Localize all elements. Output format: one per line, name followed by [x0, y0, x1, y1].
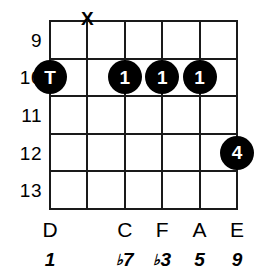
finger-dot-1: 1: [145, 60, 179, 94]
note-label-E: E: [215, 219, 259, 240]
string-line-3: [124, 21, 126, 209]
interval-label-1: 1: [24, 250, 76, 269]
fret-number-13: 13: [0, 181, 42, 200]
fret-line-3: [49, 133, 238, 135]
finger-dot-1: 1: [183, 60, 217, 94]
interval-degree: 9: [232, 249, 243, 270]
string-line-2: [86, 21, 88, 209]
fret-number-12: 12: [0, 144, 42, 163]
fret-line-2: [49, 95, 238, 97]
interval-degree: 1: [45, 249, 56, 270]
flat-icon: ♭: [116, 251, 123, 268]
fret-number-9: 9: [0, 31, 42, 50]
finger-dot-4: 4: [220, 136, 254, 170]
fret-number-11: 11: [0, 106, 42, 125]
string-line-5: [199, 21, 201, 209]
string-line-4: [161, 21, 163, 209]
finger-dot-t: T: [33, 60, 67, 94]
fret-line-5: [49, 208, 238, 210]
interval-label-9: 9: [211, 250, 263, 269]
muted-string-icon: X: [77, 8, 97, 28]
note-label-D: D: [28, 219, 72, 240]
finger-dot-1: 1: [108, 60, 142, 94]
chord-diagram: 910111213 X T1114 DCFAE 1♭7♭359: [0, 0, 269, 276]
fret-line-4: [49, 170, 238, 172]
interval-degree: 5: [194, 249, 205, 270]
string-line-6: [236, 21, 238, 209]
fret-line-1: [49, 58, 238, 60]
string-line-1: [49, 21, 51, 209]
interval-degree: 3: [160, 249, 171, 270]
interval-degree: 7: [123, 249, 134, 270]
